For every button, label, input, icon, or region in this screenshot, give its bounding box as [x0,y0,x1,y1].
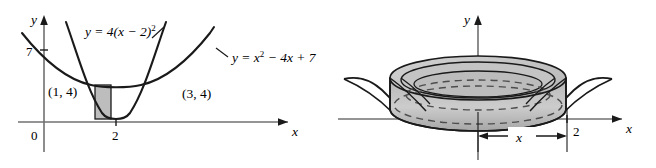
x-axis [18,118,288,126]
dimension-label-x: x [515,130,522,145]
equation-label-wide: y = x2 − 4x + 7 [230,49,317,65]
x-axis-label: x [291,124,298,139]
y-axis-label: y [29,12,37,27]
svg-text:y = x2 − 4x + 7: y = x2 − 4x + 7 [230,49,317,65]
x-axis-label: x [625,121,632,136]
y-axis [40,15,48,152]
svg-text:y = 4(x − 2)2: y = 4(x − 2)2 [83,23,156,39]
left-graph-panel: 0 7 2 y x y = 4(x − 2)2 y = x2 − 4x + 7 … [0,0,330,168]
equation-label-narrow: y = 4(x − 2)2 [83,23,156,39]
point-label-3-4: (3, 4) [182,86,211,101]
point-label-1-4: (1, 4) [48,84,77,99]
math-figure: 0 7 2 y x y = 4(x − 2)2 y = x2 − 4x + 7 … [0,0,656,168]
eq-wide-tail: − 4x + 7 [264,50,316,65]
cylinder-inner-cavity [414,71,542,97]
eq-wide-text: y = x [230,50,260,65]
x-tick-label-2: 2 [112,128,119,143]
y-axis-label: y [462,12,470,27]
eq-narrow-text: y = 4(x − 2) [83,24,152,39]
y-tick-label-7: 7 [26,44,33,59]
right-solid-panel: x y x 2 [330,0,656,168]
label-leader-wide [216,48,228,57]
x-tick-label-2: 2 [573,124,580,139]
origin-label: 0 [31,128,38,143]
eq-narrow-exponent: 2 [151,23,156,33]
